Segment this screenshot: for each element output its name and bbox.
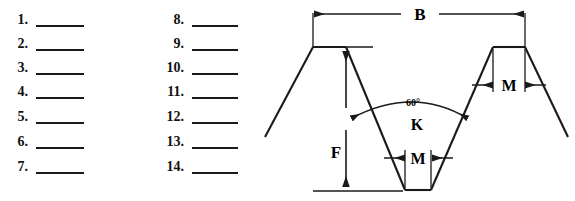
answer-column-left: 1. 2. 3. 4. 5. 6. 7. [0, 0, 145, 201]
label-angle: 60° [406, 97, 420, 108]
item-number: 8. [148, 13, 184, 27]
answer-column-right: 8. 9. 10. 11. 12. 13. 14. [148, 0, 253, 201]
list-item: 5. [0, 105, 145, 129]
list-item: 4. [0, 80, 145, 104]
list-item: 10. [148, 56, 253, 80]
label-pitch-B: B [414, 5, 425, 24]
item-number: 10. [148, 61, 184, 75]
answer-blank-line[interactable] [192, 97, 238, 99]
answer-blank-line[interactable] [36, 147, 84, 149]
dimension-depth-F: F [313, 47, 403, 191]
list-item: 14. [148, 155, 253, 179]
label-depth-F: F [331, 143, 341, 162]
dimension-root-flat-M: M [384, 150, 453, 188]
list-item: 13. [148, 130, 253, 154]
item-number: 12. [148, 110, 184, 124]
label-root-region-K: K [411, 116, 424, 133]
item-number: 11. [148, 85, 184, 99]
worksheet-page: 1. 2. 3. 4. 5. 6. 7. 8 [0, 0, 575, 201]
label-crest-flat-M: M [501, 77, 516, 94]
dimension-pitch-B: B [313, 5, 525, 47]
list-item: 8. [148, 8, 253, 32]
list-item: 1. [0, 8, 145, 32]
label-root-flat-M: M [410, 150, 425, 167]
answer-blank-line[interactable] [36, 73, 84, 75]
answer-blank-line[interactable] [192, 172, 238, 174]
list-item: 2. [0, 32, 145, 56]
item-number: 1. [0, 13, 28, 27]
answer-blank-line[interactable] [192, 49, 238, 51]
list-item: 7. [0, 155, 145, 179]
thread-profile-diagram: B F 60° K M [253, 0, 575, 201]
list-item: 6. [0, 130, 145, 154]
item-number: 9. [148, 37, 184, 51]
list-item: 11. [148, 80, 253, 104]
answer-blank-line[interactable] [192, 25, 238, 27]
answer-blank-line[interactable] [36, 49, 84, 51]
list-item: 9. [148, 32, 253, 56]
item-number: 7. [0, 160, 28, 174]
list-item: 12. [148, 105, 253, 129]
answer-blank-line[interactable] [192, 147, 238, 149]
item-number: 6. [0, 135, 28, 149]
answer-blank-line[interactable] [192, 73, 238, 75]
answer-blank-line[interactable] [192, 122, 238, 124]
item-number: 2. [0, 37, 28, 51]
item-number: 4. [0, 85, 28, 99]
item-number: 5. [0, 110, 28, 124]
item-number: 13. [148, 135, 184, 149]
answer-blank-line[interactable] [36, 25, 84, 27]
item-number: 3. [0, 61, 28, 75]
answer-blank-line[interactable] [36, 172, 84, 174]
list-item: 3. [0, 56, 145, 80]
answer-blank-line[interactable] [36, 97, 84, 99]
answer-blank-line[interactable] [36, 122, 84, 124]
item-number: 14. [148, 160, 184, 174]
